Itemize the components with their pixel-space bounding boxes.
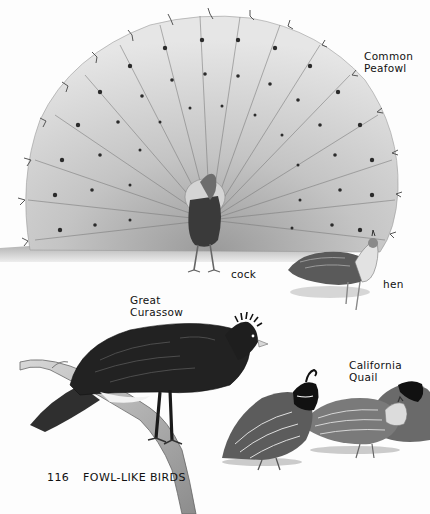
peafowl-species-label: Common Peafowl xyxy=(364,50,413,74)
peafowl-label-line1: Common xyxy=(364,50,413,62)
curassow-species-label: Great Curassow xyxy=(130,294,183,318)
cock-figure-label: cock xyxy=(231,268,256,280)
california-quail-illustration xyxy=(222,370,430,470)
page-number: 116 xyxy=(47,471,69,484)
hen-figure-label: hen xyxy=(383,278,404,290)
curassow-label-line1: Great xyxy=(130,294,183,306)
curassow-label-line2: Curassow xyxy=(130,306,183,318)
peafowl-cock-illustration xyxy=(0,8,402,272)
peafowl-label-line2: Peafowl xyxy=(364,62,413,74)
page-footer: 116 FOWL-LIKE BIRDS xyxy=(47,471,186,484)
quail-label-line2: Quail xyxy=(349,371,402,383)
quail-label-line1: California xyxy=(349,359,402,371)
field-guide-page: Common Peafowl cock hen Great Curassow C… xyxy=(0,0,430,514)
quail-species-label: California Quail xyxy=(349,359,402,383)
bird-illustrations xyxy=(0,0,430,514)
section-title: FOWL-LIKE BIRDS xyxy=(83,471,186,484)
